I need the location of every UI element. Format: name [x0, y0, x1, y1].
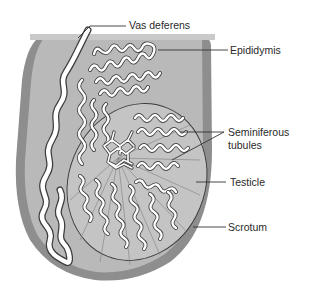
label-seminiferous-line2: tubules [228, 139, 262, 151]
label-vas-deferens: Vas deferens [129, 19, 190, 31]
label-scrotum: Scrotum [228, 221, 267, 233]
label-testicle: Testicle [230, 176, 265, 188]
label-epididymis: Epididymis [230, 44, 281, 56]
cut-edge [30, 34, 215, 40]
label-seminiferous-line1: Seminiferous [228, 126, 289, 138]
